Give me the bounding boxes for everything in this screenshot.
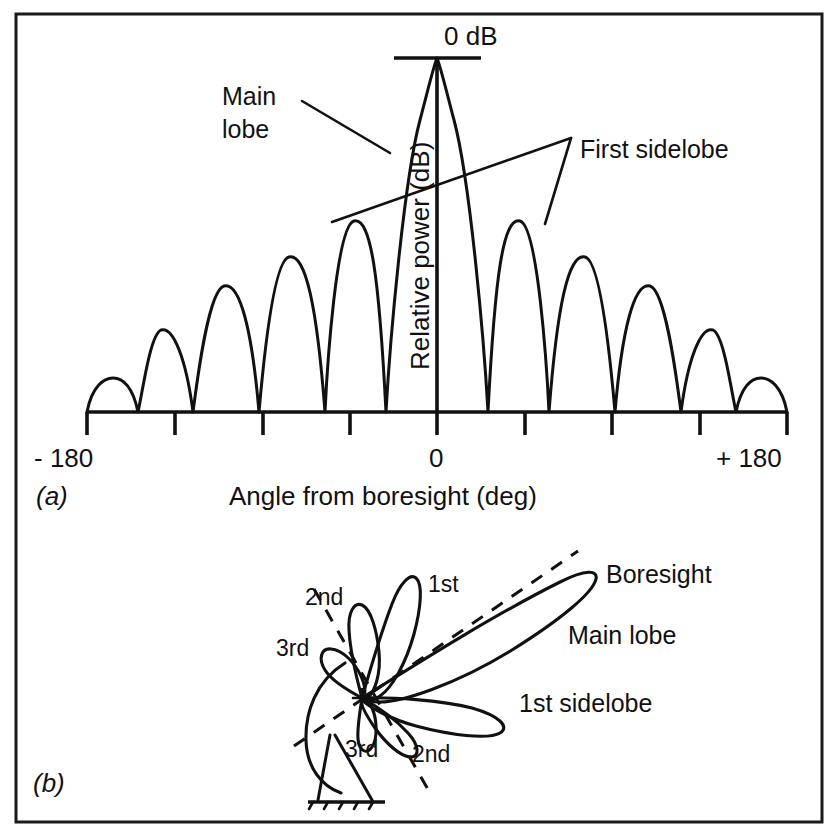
- x-axis-title: Angle from boresight (deg): [229, 481, 537, 511]
- polar-label-upper-3rd: 3rd: [276, 635, 309, 661]
- panel-label-b: (b): [33, 768, 65, 798]
- leader-main-lobe: [302, 101, 390, 153]
- polar-lower-1st-sidelobe: [361, 698, 504, 736]
- x-tick-label-right: + 180: [716, 443, 782, 473]
- polar-upper-3rd-sidelobe: [321, 649, 365, 698]
- polar-label-main-lobe: Main lobe: [568, 621, 676, 649]
- antenna-pattern-figure: 0 dB Relative power (dB) - 180 0 + 180 A…: [0, 0, 834, 836]
- leader-first-sidelobe-right: [545, 138, 571, 224]
- polar-label-lower-3rd: 3rd: [345, 736, 378, 762]
- figure-canvas: 0 dB Relative power (dB) - 180 0 + 180 A…: [0, 0, 834, 836]
- polar-upper-1st-sidelobe: [362, 577, 421, 701]
- annotation-main-lobe-line2: lobe: [222, 115, 269, 143]
- x-tick-label-left: - 180: [34, 443, 93, 473]
- x-tick-label-center: 0: [429, 443, 443, 473]
- peak-db-label: 0 dB: [444, 21, 498, 51]
- pedestal-leg-left: [318, 735, 330, 800]
- panel-label-a: (a): [36, 481, 68, 511]
- polar-label-lower-2nd: 2nd: [412, 741, 450, 767]
- polar-label-upper-1st: 1st: [428, 571, 459, 597]
- polar-label-upper-2nd: 2nd: [305, 584, 343, 610]
- polar-label-boresight: Boresight: [606, 560, 712, 588]
- polar-label-1st-sidelobe: 1st sidelobe: [519, 689, 652, 717]
- annotation-first-sidelobe: First sidelobe: [580, 135, 729, 163]
- annotation-main-lobe-line1: Main: [222, 82, 276, 110]
- x-axis-ticks: [87, 412, 787, 435]
- leader-first-sidelobe-left: [332, 138, 571, 222]
